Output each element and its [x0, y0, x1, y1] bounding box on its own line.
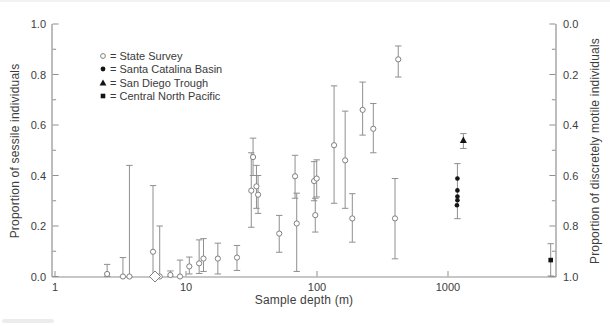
legend-item-san-diego-trough: = San Diego Trough — [96, 76, 222, 90]
tick-label: 0.6 — [31, 119, 46, 131]
tick-label: 1 — [52, 281, 58, 293]
x-axis-title: Sample depth (m) — [52, 293, 556, 307]
legend-item-santa-catalina-basin: = Santa Catalina Basin — [96, 63, 222, 77]
tick-label: 1000 — [436, 281, 460, 293]
tick-label: 100 — [308, 281, 326, 293]
scatter-chart: 1.00.80.60.40.20.00.00.20.40.60.81.01101… — [0, 0, 610, 326]
legend-item-state-survey: = State Survey — [96, 49, 222, 63]
open-circle-icon — [96, 50, 110, 62]
tick-label: 10 — [180, 281, 192, 293]
legend: = State Survey = Santa Catalina Basin = … — [96, 49, 222, 103]
tick-label: 0.8 — [31, 69, 46, 81]
tick-label: 1.0 — [563, 271, 578, 283]
left-y-axis-title: Proportion of sessile individuals — [8, 11, 22, 291]
legend-label: = State Survey — [110, 50, 182, 62]
tick-label: 0.2 — [31, 220, 46, 232]
tick-label: 0.4 — [563, 119, 578, 131]
tick-label: 0.6 — [563, 170, 578, 182]
figure: 1.00.80.60.40.20.00.00.20.40.60.81.01101… — [0, 0, 610, 326]
right-y-axis-title: Proportion of discretely motile individu… — [588, 11, 602, 291]
legend-label: = San Diego Trough — [110, 77, 208, 89]
legend-label: = Central North Pacific — [110, 90, 220, 102]
tick-label: 0.2 — [563, 69, 578, 81]
tick-label: 0.0 — [31, 271, 46, 283]
tick-label: 0.0 — [563, 18, 578, 30]
tick-label: 0.4 — [31, 170, 46, 182]
legend-item-central-north-pacific: = Central North Pacific — [96, 90, 222, 104]
tick-label: 0.8 — [563, 220, 578, 232]
filled-triangle-icon — [96, 77, 110, 89]
filled-square-icon — [96, 90, 110, 102]
filled-circle-icon — [96, 63, 110, 75]
tick-label: 1.0 — [31, 18, 46, 30]
legend-label: = Santa Catalina Basin — [110, 63, 222, 75]
